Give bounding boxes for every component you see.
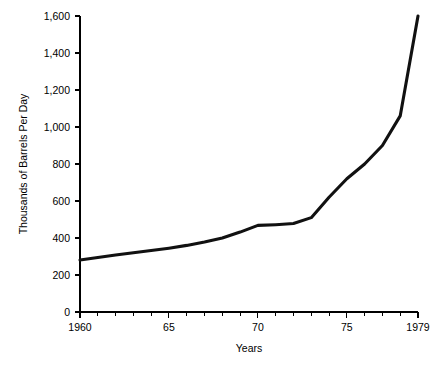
y-tick-group xyxy=(75,16,80,312)
x-tick-label: 70 xyxy=(252,321,264,333)
x-tick-label: 1960 xyxy=(68,321,92,333)
x-minor-tick-group xyxy=(98,312,400,316)
y-tick-label: 1,400 xyxy=(44,47,70,59)
chart-container: 02004006008001,0001,2001,4001,600 196065… xyxy=(0,0,435,369)
y-tick-label: 1,600 xyxy=(44,10,70,22)
y-tick-label: 1,000 xyxy=(44,121,70,133)
y-tick-label: 1,200 xyxy=(44,84,70,96)
y-tick-label: 800 xyxy=(52,158,70,170)
data-series-line xyxy=(80,16,418,260)
x-tick-label: 75 xyxy=(341,321,353,333)
y-tick-label-group: 02004006008001,0001,2001,4001,600 xyxy=(44,10,70,318)
x-tick-label-group: 19606570751979 xyxy=(68,321,430,333)
x-tick-label: 1979 xyxy=(406,321,430,333)
axis-group xyxy=(80,16,418,312)
y-tick-label: 600 xyxy=(52,195,70,207)
line-chart-plot: 02004006008001,0001,2001,4001,600 196065… xyxy=(0,0,435,369)
y-tick-label: 200 xyxy=(52,269,70,281)
y-axis-title: Thousands of Barrels Per Day xyxy=(17,93,29,234)
x-tick-label: 65 xyxy=(163,321,175,333)
x-tick-group xyxy=(80,312,418,318)
x-axis-title: Years xyxy=(236,342,262,354)
y-tick-label: 400 xyxy=(52,232,70,244)
y-tick-label: 0 xyxy=(64,306,70,318)
